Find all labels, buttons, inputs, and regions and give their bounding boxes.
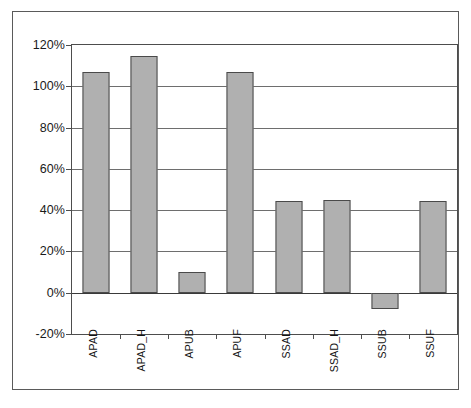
bar [323, 200, 350, 293]
bar [227, 72, 254, 293]
bar-slot [313, 45, 361, 334]
x-axis-label: APAD [87, 329, 99, 358]
bar [83, 72, 110, 293]
y-tick-label: 40% [40, 203, 65, 217]
y-tick-label: 80% [40, 121, 65, 135]
x-axis-label: APUF [231, 329, 243, 358]
chart-figure: 120%100%80%60%40%20%0%-20% APADAPAD_HAPU… [0, 0, 471, 408]
bar-slot [120, 45, 168, 334]
bar [179, 272, 206, 293]
bar-slot [361, 45, 409, 334]
x-axis-labels: APADAPAD_HAPUBAPUFSSADSSAD_HSSUBSSUF [58, 325, 445, 385]
bar [275, 201, 302, 293]
bar-slot [409, 45, 457, 334]
bar [131, 56, 158, 292]
x-axis-label: SSUB [376, 329, 388, 358]
plot-area: 120%100%80%60%40%20%0%-20% [71, 44, 458, 335]
bar-slot [265, 45, 313, 334]
x-axis-label: APUB [183, 329, 195, 358]
bar [419, 201, 446, 293]
bar-slot [168, 45, 216, 334]
x-axis-label: APAD_H [135, 329, 147, 371]
y-tick-label: 100% [33, 79, 65, 93]
y-tick-label: 60% [40, 162, 65, 176]
bar-slot [72, 45, 120, 334]
x-axis-label: SSAD [280, 329, 292, 358]
bar-slot [216, 45, 264, 334]
y-tick-label: 0% [47, 286, 65, 300]
x-axis-label: SSAD_H [328, 329, 340, 372]
bar-series [72, 45, 457, 334]
y-tick-label: 120% [33, 38, 65, 52]
bar [371, 293, 398, 310]
x-axis-label: SSUF [424, 329, 436, 358]
y-tick-label: 20% [40, 244, 65, 258]
